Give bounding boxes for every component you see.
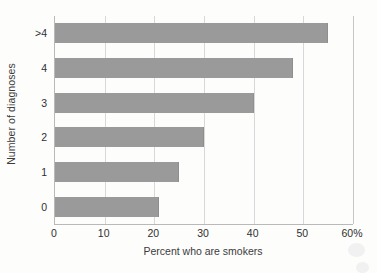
bar-row: [55, 120, 353, 155]
bar-row: [55, 16, 353, 51]
x-tick-label: 10: [98, 227, 110, 239]
bar: [55, 23, 328, 43]
y-axis-title-text: Number of diagnoses: [5, 63, 17, 165]
x-axis-tick-labels: 0102030405060%: [54, 227, 352, 243]
plot-area: [54, 16, 353, 225]
x-tick-label: 60%: [341, 227, 362, 239]
y-tick-label: 0: [22, 189, 52, 224]
x-axis-title: Percent who are smokers: [54, 245, 352, 257]
x-tick-label: 20: [147, 227, 159, 239]
x-tick-label: 0: [51, 227, 57, 239]
bar-chart-figure: Number of diagnoses >443210 010203040506…: [0, 0, 377, 273]
bar: [55, 58, 293, 78]
bar-row: [55, 155, 353, 190]
y-axis-title: Number of diagnoses: [0, 0, 22, 228]
y-tick-label: 2: [22, 120, 52, 155]
bar-row: [55, 85, 353, 120]
gridline: [353, 16, 354, 224]
y-axis-tick-labels: >443210: [22, 16, 52, 224]
bar: [55, 162, 179, 182]
x-tick-label: 40: [247, 227, 259, 239]
bar: [55, 93, 254, 113]
x-tick-label: 30: [197, 227, 209, 239]
bar-row: [55, 51, 353, 86]
bar: [55, 197, 159, 217]
bar: [55, 127, 204, 147]
bar-row: [55, 189, 353, 224]
x-tick-label: 50: [296, 227, 308, 239]
y-tick-label: 4: [22, 51, 52, 86]
y-tick-label: 1: [22, 155, 52, 190]
scan-artifact: [356, 262, 369, 273]
bar-series: [55, 16, 353, 224]
y-tick-label: 3: [22, 85, 52, 120]
y-tick-label: >4: [22, 16, 52, 51]
